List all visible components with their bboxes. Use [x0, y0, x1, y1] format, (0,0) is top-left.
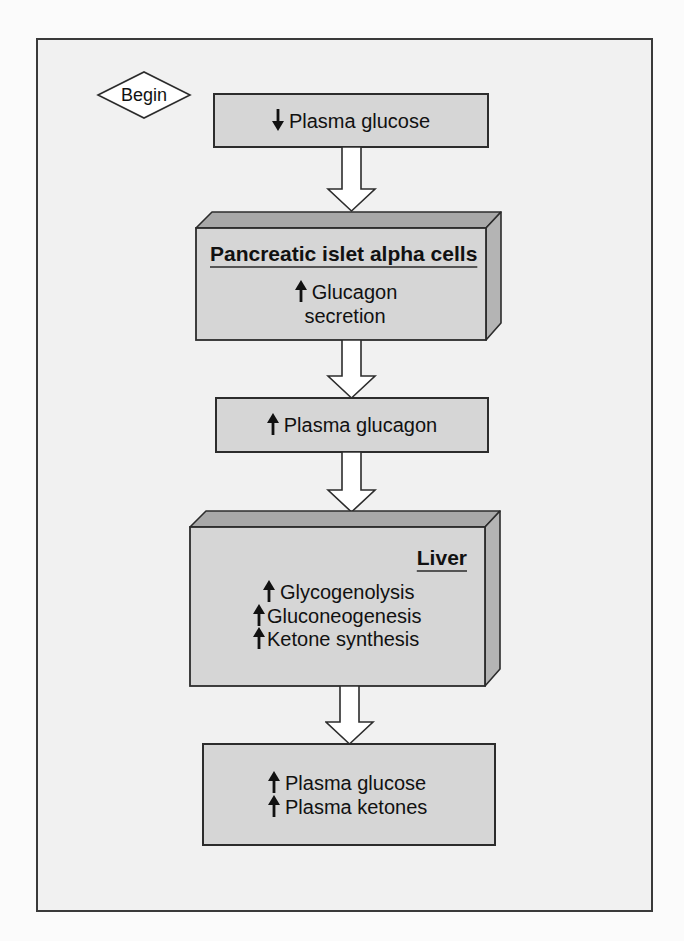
node-line: Plasma glucagon	[267, 413, 437, 437]
flow-arrow-icon	[325, 686, 377, 746]
node-line: Glucagon	[295, 280, 398, 304]
begin-label: Begin	[96, 70, 192, 120]
up-arrow-icon	[295, 280, 307, 302]
node-plasma-glucagon: Plasma glucagon	[215, 397, 489, 453]
node-text: Plasma glucose	[285, 771, 426, 795]
up-arrow-icon	[267, 413, 279, 435]
node-line: secretion	[304, 304, 385, 328]
up-arrow-icon	[253, 604, 265, 626]
flow-arrow-icon	[326, 452, 378, 514]
node-line: Plasma glucose	[268, 771, 427, 795]
node-text: Plasma ketones	[285, 795, 427, 819]
up-arrow-icon	[268, 771, 280, 793]
node-text: Plasma glucose	[289, 109, 430, 133]
node-line: Plasma glucose	[272, 109, 430, 133]
node-text: secretion	[304, 304, 385, 328]
node-heading: Pancreatic islet alpha cells	[210, 242, 477, 266]
node-text: Glucagon	[312, 280, 398, 304]
node-line: Plasma ketones	[268, 795, 427, 819]
node-line: Glycogenolysis	[263, 580, 415, 604]
up-arrow-icon	[263, 580, 275, 602]
up-arrow-icon	[253, 627, 265, 649]
node-plasma-glucose-decrease: Plasma glucose	[213, 93, 489, 148]
node-line: Gluconeogenesis	[253, 604, 422, 628]
node-text: Ketone synthesis	[267, 627, 419, 651]
node-text: Plasma glucagon	[284, 413, 437, 437]
down-arrow-icon	[272, 109, 284, 131]
begin-diamond: Begin	[96, 70, 192, 120]
node-heading: Liver	[417, 546, 467, 570]
node-text: Gluconeogenesis	[267, 604, 422, 628]
node-text: Glycogenolysis	[280, 580, 415, 604]
node-pancreatic-alpha-cells: Pancreatic islet alpha cells Glucagon se…	[195, 211, 503, 342]
flow-arrow-icon	[326, 147, 378, 213]
node-liver: Liver Glycogenolysis Gluconeogenesis	[189, 510, 503, 688]
node-line: Ketone synthesis	[253, 627, 419, 651]
node-plasma-glucose-ketones: Plasma glucose Plasma ketones	[202, 743, 496, 846]
up-arrow-icon	[268, 795, 280, 817]
flow-arrow-icon	[326, 340, 378, 400]
